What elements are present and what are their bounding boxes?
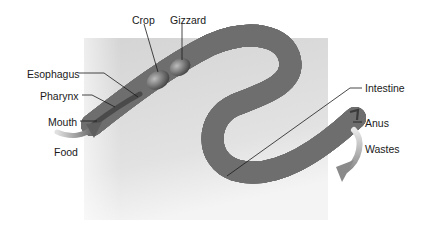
label-pharynx: Pharynx [40,90,79,102]
label-mouth: Mouth [48,116,77,128]
label-gizzard: Gizzard [170,14,206,26]
label-intestine: Intestine [365,82,405,94]
label-wastes: Wastes [365,143,400,155]
label-esophagus: Esophagus [27,68,80,80]
label-food: Food [54,146,78,158]
label-crop: Crop [132,14,155,26]
label-anus: Anus [365,117,389,129]
earthworm-digestive-diagram [0,0,422,225]
